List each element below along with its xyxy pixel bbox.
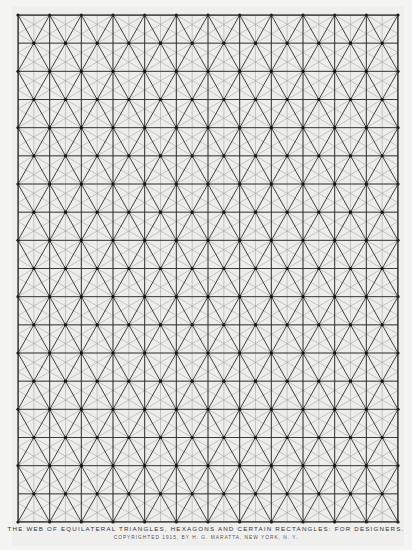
caption-copyright: COPYRIGHTED 1915, BY H. G. MARATTA, NEW … — [0, 535, 412, 540]
page: THE WEB OF EQUILATERAL TRIANGLES, HEXAGO… — [0, 0, 412, 550]
triangle-hexagon-grid — [0, 0, 412, 550]
caption-title: THE WEB OF EQUILATERAL TRIANGLES, HEXAGO… — [0, 525, 412, 532]
